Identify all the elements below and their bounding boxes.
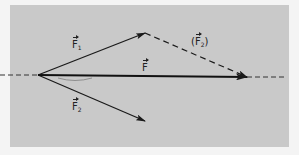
label-f1: F1 <box>72 40 82 51</box>
vector-f1-arrow <box>38 33 145 75</box>
vector-symbol: F <box>72 40 78 50</box>
close-paren: ) <box>205 36 209 47</box>
vector-symbol: F <box>195 37 201 47</box>
vector-symbol: F <box>142 63 148 73</box>
vector-f-resultant-arrow <box>38 75 247 77</box>
angle-arc <box>58 78 92 81</box>
label-f2: F2 <box>72 102 82 113</box>
subscript: 2 <box>78 106 82 113</box>
vector-f2-arrow <box>38 75 145 121</box>
label-f2-translated: (F2) <box>191 37 208 48</box>
vector-symbol: F <box>72 102 78 112</box>
vector-diagram <box>0 0 299 155</box>
label-f: F <box>142 63 148 73</box>
subscript: 1 <box>78 44 82 51</box>
